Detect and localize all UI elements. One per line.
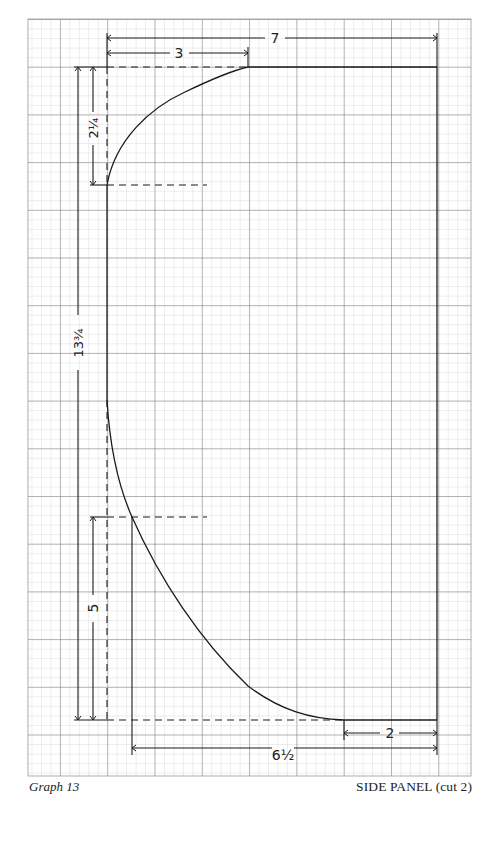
dim-label-top-curve-height: 2¼ — [86, 117, 101, 138]
dim-label-bottom-curve-height: 5 — [85, 604, 101, 613]
figure-title: SIDE PANEL (cut 2) — [356, 779, 472, 795]
pattern-diagram: 7 3 2¼ 13¾ 5 6½ 2 — [0, 0, 503, 842]
dim-label-bottom-straight: 2 — [386, 725, 395, 741]
dim-label-total-width: 7 — [271, 30, 280, 46]
graph-sheet: 7 3 2¼ 13¾ 5 6½ 2 Graph 13 SIDE PANEL (c… — [0, 0, 503, 842]
dim-label-top-curve-width: 3 — [175, 45, 184, 61]
figure-number: Graph 13 — [29, 779, 79, 795]
dim-label-total-height: 13¾ — [71, 328, 86, 358]
dim-label-bottom-curve-width: 6½ — [272, 747, 294, 763]
